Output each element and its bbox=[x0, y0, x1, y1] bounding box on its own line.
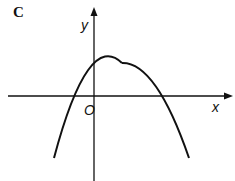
y-axis-arrow-icon bbox=[91, 7, 98, 16]
x-axis-arrow-icon bbox=[224, 93, 233, 100]
y-axis bbox=[91, 7, 98, 181]
graph bbox=[0, 0, 235, 181]
x-axis bbox=[8, 93, 233, 100]
parabola-curve bbox=[54, 56, 189, 158]
